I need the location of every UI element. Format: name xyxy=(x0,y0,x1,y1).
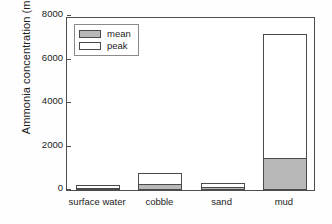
y-axis-tick-label: 4000 xyxy=(42,95,63,106)
bar-mean[interactable] xyxy=(76,188,120,190)
bar-group[interactable] xyxy=(263,16,307,190)
y-axis-tick: 0 xyxy=(67,189,71,190)
chart-figure: Ammonia concentration (mg N/L) 020004000… xyxy=(0,0,332,224)
y-axis-tick: 6000 xyxy=(67,59,71,60)
bar-mean[interactable] xyxy=(138,184,182,190)
legend-label: peak xyxy=(107,41,128,51)
x-axis-category-label: cobble xyxy=(128,196,190,207)
y-axis-title: Ammonia concentration (mg N/L) xyxy=(20,0,36,142)
bar-group[interactable] xyxy=(138,16,182,190)
y-axis-tick: 4000 xyxy=(67,102,71,103)
y-axis-tick-label: 2000 xyxy=(42,139,63,150)
x-axis-category-label: mud xyxy=(253,196,315,207)
y-axis-tick-label: 8000 xyxy=(42,8,63,19)
y-axis-tick: 8000 xyxy=(67,15,71,16)
y-axis-tick: 2000 xyxy=(67,146,71,147)
x-axis-category-label: surface water xyxy=(66,196,128,207)
x-axis-category-label: sand xyxy=(191,196,253,207)
y-axis-tick-label: 0 xyxy=(58,182,63,193)
legend-swatch-peak xyxy=(79,42,101,50)
chart-legend: meanpeak xyxy=(74,24,139,56)
legend-label: mean xyxy=(107,29,131,39)
bar-mean[interactable] xyxy=(201,187,245,190)
legend-item[interactable]: peak xyxy=(79,40,131,52)
legend-swatch-mean xyxy=(79,30,101,38)
y-axis-tick-label: 6000 xyxy=(42,52,63,63)
plot-area: 02000400060008000 meanpeak xyxy=(66,17,315,191)
bar-mean[interactable] xyxy=(263,158,307,190)
bar-group[interactable] xyxy=(201,16,245,190)
legend-item[interactable]: mean xyxy=(79,28,131,40)
